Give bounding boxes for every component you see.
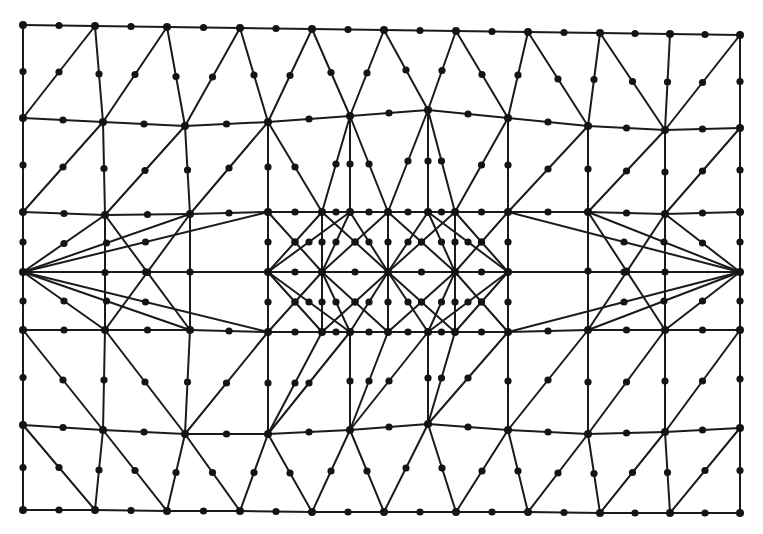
mesh-midside-node <box>101 269 108 276</box>
mesh-midside-node <box>140 120 147 127</box>
mesh-corner-node <box>264 268 272 276</box>
mesh-midside-node <box>631 509 638 516</box>
mesh-midside-node <box>504 161 511 168</box>
mesh-midside-node <box>554 469 561 476</box>
mesh-midside-node <box>544 118 551 125</box>
mesh-midside-node <box>332 298 339 305</box>
mesh-midside-node <box>55 68 62 75</box>
mesh-corner-node <box>19 114 27 122</box>
mesh-corner-node <box>384 268 392 276</box>
mesh-midside-node <box>385 109 392 116</box>
mesh-midside-node <box>272 25 279 32</box>
mesh-midside-node <box>464 238 471 245</box>
mesh-corner-node <box>101 211 109 219</box>
mesh-midside-node <box>363 467 370 474</box>
mesh-midside-node <box>504 377 511 384</box>
mesh-midside-node <box>514 467 521 474</box>
mesh-midside-node <box>141 378 148 385</box>
mesh-corner-nodes-layer <box>19 21 744 517</box>
mesh-midside-node <box>264 298 271 305</box>
mesh-midside-node <box>19 161 26 168</box>
mesh-midside-node <box>305 115 312 122</box>
mesh-midside-node <box>661 377 668 384</box>
mesh-midside-node <box>478 298 485 305</box>
mesh-midside-node <box>620 298 627 305</box>
mesh-midside-node <box>365 377 372 384</box>
mesh-corner-node <box>91 22 99 30</box>
mesh-corner-node <box>264 328 272 336</box>
mesh-midside-node <box>478 467 485 474</box>
mesh-corner-node <box>19 208 27 216</box>
mesh-corner-node <box>236 24 244 32</box>
mesh-midside-node <box>418 298 425 305</box>
mesh-midside-node <box>19 297 26 304</box>
mesh-midside-node <box>264 163 271 170</box>
mesh-midside-node <box>351 268 358 275</box>
mesh-midside-node <box>60 297 67 304</box>
mesh-midside-node <box>332 160 339 167</box>
mesh-midside-node <box>223 430 230 437</box>
mesh-midside-node <box>404 157 411 164</box>
mesh-midside-node <box>291 238 298 245</box>
mesh-corner-node <box>264 118 272 126</box>
mesh-midside-node <box>346 160 353 167</box>
mesh-midside-node <box>451 298 458 305</box>
mesh-midside-node <box>144 269 151 276</box>
mesh-midside-node <box>351 298 358 305</box>
mesh-corner-node <box>584 208 592 216</box>
mesh-midside-node <box>736 297 743 304</box>
mesh-midside-node <box>131 467 138 474</box>
mesh-midside-node <box>478 161 485 168</box>
mesh-midside-node <box>478 328 485 335</box>
mesh-midside-node <box>701 509 708 516</box>
mesh-midside-node <box>131 71 138 78</box>
mesh-midside-node <box>344 508 351 515</box>
mesh-midside-node <box>305 379 312 386</box>
mesh-edges-layer <box>23 25 740 513</box>
mesh-corner-node <box>318 208 326 216</box>
mesh-midside-node <box>141 167 148 174</box>
mesh-midside-node <box>438 328 445 335</box>
mesh-midside-node <box>504 298 511 305</box>
mesh-midside-node <box>661 168 668 175</box>
mesh-midside-node <box>172 73 179 80</box>
mesh-corner-node <box>346 112 354 120</box>
mesh-midside-node <box>250 71 257 78</box>
mesh-midside-node <box>305 238 312 245</box>
mesh-midside-node <box>451 238 458 245</box>
mesh-midside-node <box>384 298 391 305</box>
mesh-midside-nodes-layer <box>19 22 743 517</box>
mesh-midside-node <box>623 124 630 131</box>
mesh-midside-node <box>264 238 271 245</box>
mesh-midside-node <box>478 208 485 215</box>
mesh-corner-node <box>308 25 316 33</box>
mesh-midside-node <box>664 469 671 476</box>
mesh-corner-node <box>584 430 592 438</box>
mesh-midside-node <box>544 208 551 215</box>
mesh-corner-node <box>661 126 669 134</box>
mesh-midside-node <box>554 75 561 82</box>
mesh-midside-node <box>438 464 445 471</box>
mesh-midside-node <box>699 209 706 216</box>
mesh-midside-node <box>590 76 597 83</box>
mesh-corner-node <box>424 420 432 428</box>
mesh-midside-node <box>478 71 485 78</box>
mesh-midside-node <box>584 378 591 385</box>
mesh-corner-node <box>504 114 512 122</box>
mesh-corner-node <box>384 208 392 216</box>
mesh-midside-node <box>365 160 372 167</box>
mesh-corner-node <box>524 28 532 36</box>
mesh-midside-node <box>332 208 339 215</box>
mesh-midside-node <box>59 376 66 383</box>
mesh-midside-node <box>327 467 334 474</box>
mesh-midside-node <box>19 374 26 381</box>
mesh-corner-node <box>736 208 744 216</box>
mesh-midside-node <box>402 66 409 73</box>
mesh-corner-node <box>19 21 27 29</box>
mesh-corner-node <box>19 326 27 334</box>
mesh-midside-node <box>504 238 511 245</box>
mesh-midside-node <box>327 69 334 76</box>
mesh-midside-node <box>186 268 193 275</box>
mesh-corner-node <box>736 424 744 432</box>
mesh-midside-node <box>438 208 445 215</box>
